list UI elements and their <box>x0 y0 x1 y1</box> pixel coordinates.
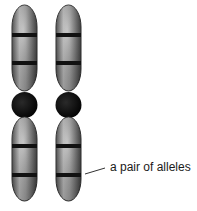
chromosome-left <box>12 5 38 201</box>
band-right-upper-1 <box>56 33 81 37</box>
allele-label: a pair of alleles <box>110 160 191 174</box>
band-right-lower-1 <box>56 144 81 148</box>
chromosome-diagram <box>0 0 197 211</box>
band-left-lower-2 <box>12 173 37 177</box>
chromosome-right <box>56 5 82 201</box>
band-left-upper-1 <box>12 33 37 37</box>
band-left-lower-1 <box>12 144 37 148</box>
band-left-upper-2 <box>12 61 37 65</box>
band-right-lower-2 <box>56 173 81 177</box>
centromere-right <box>56 92 82 118</box>
centromere-left <box>12 92 38 118</box>
allele-pointer-line <box>85 168 105 174</box>
band-right-upper-2 <box>56 61 81 65</box>
